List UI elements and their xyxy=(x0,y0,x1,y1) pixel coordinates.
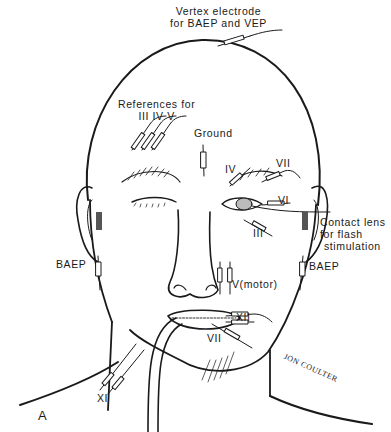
label-line: Vertex electrode xyxy=(170,5,267,17)
label-v-motor: V(motor) xyxy=(232,278,278,290)
label-line: III IV V xyxy=(118,110,195,122)
label-line: Contact lens xyxy=(320,216,386,228)
label-iii: III xyxy=(253,227,264,239)
right-face-side xyxy=(130,205,316,371)
left-eye-closed xyxy=(132,198,176,203)
label-line: stimulation xyxy=(320,240,386,252)
head-outline xyxy=(87,40,320,205)
label-iv: IV xyxy=(225,163,236,175)
label-vertex-electrode: Vertex electrode for BAEP and VEP xyxy=(170,5,267,29)
label-baep-right: BAEP xyxy=(309,260,339,272)
label-line: for flash xyxy=(320,228,386,240)
label-contact-lens: Contact lens for flash stimulation xyxy=(320,216,386,252)
panel-label: A xyxy=(38,408,47,423)
label-baep-left: BAEP xyxy=(56,258,86,270)
label-xi: XI xyxy=(97,392,108,404)
figure-canvas: Vertex electrode for BAEP and VEP Refere… xyxy=(0,0,391,432)
label-vii-eye: VII xyxy=(276,157,291,169)
label-references: References for III IV V xyxy=(118,98,195,122)
nose xyxy=(169,210,218,297)
label-ground: Ground xyxy=(194,127,233,139)
shoulder-right xyxy=(270,396,372,424)
label-line: for BAEP and VEP xyxy=(170,17,267,29)
mouth-tube xyxy=(148,318,182,432)
label-vi: VI xyxy=(278,194,289,206)
contact-lens xyxy=(236,198,252,210)
label-xii: XII xyxy=(236,311,251,323)
label-line: References for xyxy=(118,98,195,110)
label-vii-chin: VII xyxy=(207,332,222,344)
